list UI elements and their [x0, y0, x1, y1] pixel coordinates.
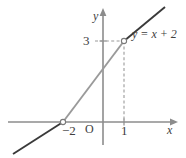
- equation-label: y = x + 2: [132, 28, 177, 40]
- tick-label-x-1: 1: [121, 124, 128, 137]
- x-axis-label: x: [167, 124, 172, 136]
- marker-point-1-3: [121, 38, 126, 43]
- graph-figure: y x O 3 1 −2 y = x + 2: [0, 0, 186, 158]
- line-segment-highlight: [63, 41, 124, 122]
- y-axis-label: y: [93, 10, 98, 22]
- line-segment-lower: [13, 122, 63, 154]
- y-axis-arrow: [100, 8, 107, 16]
- tick-label-y-3: 3: [83, 34, 90, 47]
- origin-label: O: [85, 123, 94, 135]
- tick-label-x-neg2: −2: [62, 124, 76, 137]
- guide-lines-group: [95, 41, 124, 122]
